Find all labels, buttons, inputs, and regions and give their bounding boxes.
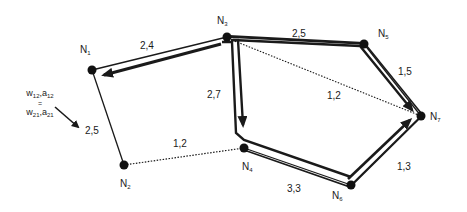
path-n4-n6-lower bbox=[244, 118, 420, 187]
edge-n4-n6 bbox=[244, 148, 351, 185]
edge-n1-n3 bbox=[92, 37, 227, 70]
legend-bottom: w21,a21 bbox=[22, 107, 58, 120]
edge-weight-n6-n7: 1,3 bbox=[397, 162, 411, 172]
path-n3-to-n1 bbox=[104, 44, 221, 75]
node-n6[interactable] bbox=[347, 181, 356, 190]
legend: w12,a12 = w21,a21 bbox=[22, 88, 58, 120]
network-graph bbox=[0, 0, 467, 212]
highlighted-paths bbox=[104, 36, 421, 187]
edge-weight-n2-n4: 1,2 bbox=[173, 139, 187, 149]
node-label-n3: N3 bbox=[217, 16, 228, 29]
node-label-n2: N2 bbox=[120, 179, 131, 192]
edge-n2-n4 bbox=[124, 148, 244, 165]
node-label-n4: N4 bbox=[242, 162, 253, 175]
path-n5-n7-outer bbox=[366, 45, 421, 113]
node-n4[interactable] bbox=[240, 144, 249, 153]
node-label-n6: N6 bbox=[332, 191, 343, 204]
node-n5[interactable] bbox=[360, 40, 369, 49]
edge-weight-n3-n4: 2,7 bbox=[207, 90, 221, 100]
edge-weight-n3-n5: 2,5 bbox=[292, 29, 306, 39]
edge-weight-n1-n2: 2,5 bbox=[85, 126, 99, 136]
node-label-n5: N5 bbox=[378, 29, 389, 42]
node-n7[interactable] bbox=[417, 112, 426, 121]
edge-n5-n7 bbox=[364, 44, 421, 116]
node-label-n1: N1 bbox=[80, 45, 91, 58]
node-n1[interactable] bbox=[88, 66, 97, 75]
edge-weight-n4-n6: 3,3 bbox=[287, 184, 301, 194]
node-n3[interactable] bbox=[223, 33, 232, 42]
legend-arrow bbox=[55, 107, 78, 127]
edge-weight-n3-n7: 1,2 bbox=[327, 91, 341, 101]
edge-n1-n2 bbox=[92, 70, 124, 165]
edge-weight-n1-n3: 2,4 bbox=[140, 41, 154, 51]
path-n3-n5-n7 bbox=[233, 40, 412, 110]
node-label-n7: N7 bbox=[430, 112, 441, 125]
node-n2[interactable] bbox=[120, 161, 129, 170]
edge-weight-n5-n7: 1,5 bbox=[398, 67, 412, 77]
